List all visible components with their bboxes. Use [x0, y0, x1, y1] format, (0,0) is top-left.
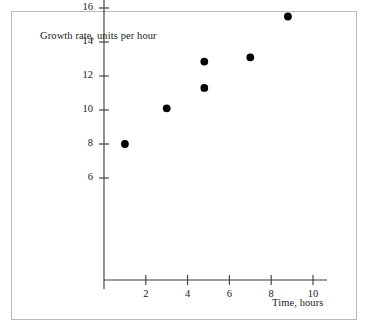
y-tick-label: 6	[71, 171, 93, 182]
x-tick-label: 8	[260, 288, 282, 299]
axes-group	[104, 0, 327, 289]
data-point	[246, 53, 254, 61]
y-tick-label: 16	[71, 1, 93, 12]
data-point	[163, 104, 171, 112]
tick-marks-group	[99, 8, 313, 285]
y-tick-label: 10	[71, 103, 93, 114]
data-point	[121, 140, 129, 148]
x-tick-label: 10	[302, 288, 324, 299]
x-tick-label: 4	[177, 288, 199, 299]
y-axis-title: Growth rate, units per hour	[40, 30, 157, 41]
scatter-plot: Growth rate, units per hour Time, hours …	[0, 0, 372, 333]
data-point	[200, 84, 208, 92]
x-tick-label: 2	[135, 288, 157, 299]
data-point	[284, 13, 292, 21]
plot-canvas	[0, 0, 372, 333]
y-tick-label: 12	[71, 69, 93, 80]
data-point	[200, 58, 208, 66]
y-tick-label: 14	[71, 35, 93, 46]
x-tick-label: 6	[218, 288, 240, 299]
y-tick-label: 8	[71, 137, 93, 148]
